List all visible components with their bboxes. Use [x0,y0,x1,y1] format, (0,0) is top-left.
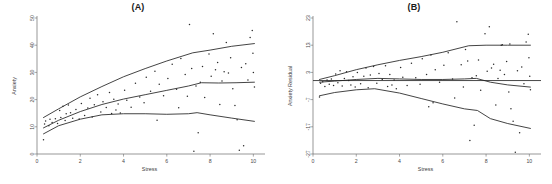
x-tick-label: 4 [398,158,401,164]
data-point [385,65,387,67]
data-point [320,83,322,85]
data-point [187,96,189,98]
data-point [396,88,398,90]
x-tick-label: 4 [122,158,125,164]
data-point [428,106,430,108]
data-point [230,57,232,59]
data-point [44,123,46,125]
data-point [70,112,72,114]
data-point [97,94,99,96]
y-tick-label: 13 [305,42,311,48]
data-point [72,118,74,120]
data-point [193,151,195,153]
y-tick-label: 0 [29,152,35,155]
data-point [517,70,519,72]
quantile-regression-figure: (A) 010203040500246810StressAnxiety (B) … [0,0,552,184]
data-point [215,69,217,71]
quantile-curve-lower-quantile [319,89,530,129]
data-point [60,117,62,119]
scatter-points [43,24,255,152]
data-point [339,70,341,72]
data-point [154,71,156,73]
x-tick-label: 0 [312,158,315,164]
quantile-curve-lower-quantile [43,113,254,134]
x-tick-label: 2 [355,158,358,164]
data-point [109,92,111,94]
data-point [476,75,478,77]
data-point [439,81,441,83]
data-point [65,113,67,115]
data-point [508,91,510,93]
data-point [319,96,321,98]
data-point [480,90,482,92]
data-point [381,79,383,81]
data-point [337,82,339,84]
data-point [469,140,471,142]
data-point [387,86,389,88]
data-point [226,42,228,44]
data-point [249,37,251,39]
data-point [389,74,391,76]
data-point [525,41,527,43]
data-point [344,78,346,80]
data-point [102,101,104,103]
data-point [163,95,165,97]
data-point [478,59,480,61]
y-tick-label: 40 [29,42,35,48]
data-point [204,97,206,99]
data-point [135,83,137,85]
data-point [354,86,356,88]
data-point [523,83,525,85]
data-point [167,78,169,80]
data-point [378,73,380,75]
data-point [489,26,491,28]
data-point [509,43,511,45]
panel-b-plot: -27-17-7313230246810StressAnxiety Residu… [276,0,552,184]
data-point [391,84,393,86]
data-point [426,74,428,76]
data-point [43,139,45,141]
data-point [59,110,61,112]
data-point [247,79,249,81]
data-point [202,66,204,68]
data-point [504,74,506,76]
y-tick-label: -7 [305,97,311,102]
data-point [491,67,493,69]
data-point [360,83,362,85]
data-point [463,86,465,88]
data-point [45,120,47,122]
data-point [486,71,488,73]
data-point [210,75,212,77]
y-tick-label: -27 [305,150,311,158]
data-point [64,120,66,122]
data-point [171,63,173,65]
data-point [105,107,107,109]
data-point [454,97,456,99]
data-point [443,65,445,67]
data-point [243,145,245,147]
data-point [221,80,223,82]
data-point [213,33,215,35]
data-point [195,85,197,87]
data-point [232,88,234,90]
data-point [81,103,83,105]
data-point [350,84,352,86]
data-point [484,33,486,35]
quantile-curve-upper-quantile [43,44,254,118]
panel-a-plot: 010203040500246810StressAnxiety [0,0,276,184]
data-point [333,85,335,87]
y-tick-label: 3 [305,71,311,74]
data-point [197,132,199,134]
data-point [84,115,86,117]
y-axis-title: Anxiety Residual [287,66,293,106]
data-point [376,83,378,85]
data-point [521,66,523,68]
data-point [419,84,421,86]
data-point [529,75,531,77]
data-point [326,79,328,81]
data-point [158,84,160,86]
axis-frame [37,16,265,154]
data-point [253,72,255,74]
data-point [467,60,469,62]
data-point [57,123,59,125]
